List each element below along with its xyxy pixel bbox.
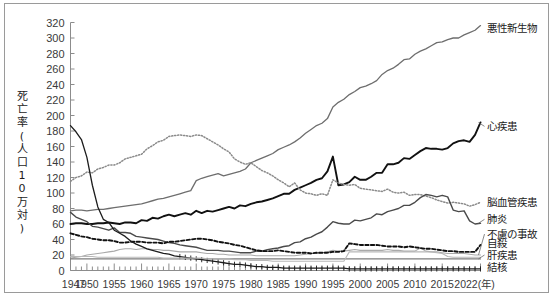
y-axis-title-char: ) <box>20 222 24 235</box>
x-tick-label: 1970 <box>185 278 209 290</box>
series-line-心疾患 <box>71 122 481 224</box>
y-tick-label: 280 <box>46 48 64 60</box>
series-line-老衰_補助 <box>71 252 481 261</box>
y-tick-label: 100 <box>46 187 64 199</box>
y-tick-label: 160 <box>46 141 64 153</box>
series-label-肝疾患: 肝疾患 <box>487 249 517 261</box>
y-axis-title-char: 死 <box>17 90 28 103</box>
series-leader-不慮の事故 <box>479 234 485 255</box>
series-label-自殺: 自殺 <box>487 237 508 249</box>
y-axis-title-char: 人 <box>17 143 28 156</box>
x-tick-label: 1960 <box>130 278 154 290</box>
y-tick-label: 40 <box>52 234 64 246</box>
y-tick-label: 300 <box>46 32 64 44</box>
y-axis-title-char: 口 <box>17 156 28 169</box>
y-tick-label: 220 <box>46 94 64 106</box>
y-axis-title-char: 0 <box>19 182 26 195</box>
x-tick-label: 1975 <box>212 278 236 290</box>
y-tick-label: 0 <box>58 265 64 277</box>
x-tick-label: 1990 <box>294 278 318 290</box>
x-tick-label: 2010 <box>403 278 427 290</box>
series-label-脳血管疾患: 脳血管疾患 <box>487 196 537 208</box>
y-axis-title-char: 率 <box>17 115 28 129</box>
x-tick-label: 1995 <box>321 278 345 290</box>
y-tick-label: 120 <box>46 172 64 184</box>
series-line-不慮の事故 <box>71 248 481 258</box>
x-tick-label: 1980 <box>239 278 263 290</box>
y-tick-label: 60 <box>52 218 64 230</box>
y-tick-label: 240 <box>46 79 64 91</box>
x-tick-label: 2022(年) <box>454 278 494 290</box>
y-tick-label: 80 <box>52 203 64 215</box>
x-tick-label: 2015 <box>431 278 455 290</box>
x-tick-label: 1950 <box>75 278 99 290</box>
x-tick-label: 2005 <box>376 278 400 290</box>
y-tick-label: 20 <box>52 249 64 261</box>
series-label-悪性新生物: 悪性新生物 <box>487 22 537 34</box>
series-label-心疾患: 心疾患 <box>487 120 517 132</box>
y-tick-label: 320 <box>46 17 64 29</box>
series-line-脳血管疾患 <box>71 135 481 206</box>
series-line-悪性新生物 <box>71 26 481 211</box>
x-tick-label: 2000 <box>349 278 373 290</box>
x-tick-label: 1955 <box>103 278 127 290</box>
series-label-結核: 結核 <box>487 261 508 273</box>
series-label-肺炎: 肺炎 <box>487 213 508 225</box>
y-axis-title-char: 亡 <box>17 102 28 116</box>
y-tick-label: 200 <box>46 110 64 122</box>
series-line-自殺 <box>71 233 481 253</box>
y-tick-label: 260 <box>46 63 64 75</box>
y-axis-title-char: ( <box>20 130 24 143</box>
y-axis-title-char: 対 <box>17 208 28 222</box>
y-axis-title-char: 万 <box>17 196 28 209</box>
x-tick-label: 1985 <box>267 278 291 290</box>
y-tick-label: 140 <box>46 156 64 168</box>
series-leader-肺炎 <box>479 219 485 223</box>
y-tick-label: 180 <box>46 125 64 137</box>
chart-figure: 0204060801001201401601802002202402602803… <box>0 0 555 298</box>
series-line-肺炎 <box>71 195 481 253</box>
mortality-rate-line-chart: 0204060801001201401601802002202402602803… <box>0 0 555 298</box>
y-axis-title-char: 1 <box>19 169 26 182</box>
x-tick-label: 1965 <box>157 278 181 290</box>
